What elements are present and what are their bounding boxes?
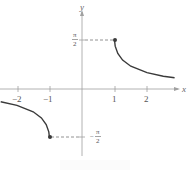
x-tick-label: −2: [12, 94, 22, 104]
svg-text:π: π: [73, 31, 77, 39]
caption-area: [60, 160, 130, 170]
x-tick-label: −1: [43, 94, 53, 104]
closed-point-upper: [113, 38, 117, 42]
y-tick-label-pi-over-2: π 2: [72, 31, 78, 48]
svg-text:2: 2: [73, 40, 77, 48]
y-tick-label-neg-pi-over-2: − π 2: [90, 128, 101, 145]
svg-text:2: 2: [96, 137, 100, 145]
svg-text:−: −: [90, 133, 94, 141]
curve-right-branch: [115, 40, 175, 78]
svg-text:π: π: [96, 128, 100, 136]
y-axis-label: y: [79, 2, 84, 12]
closed-point-lower: [48, 135, 52, 139]
x-axis-label: x: [181, 84, 186, 94]
x-tick-label: 2: [144, 94, 149, 104]
x-tick-label: 1: [112, 94, 117, 104]
curve-left-branch: [1, 102, 50, 138]
arccsc-graph: x y −2 −1 1 2 π 2 − π 2: [0, 0, 187, 172]
x-axis-arrow-icon: [174, 87, 180, 91]
